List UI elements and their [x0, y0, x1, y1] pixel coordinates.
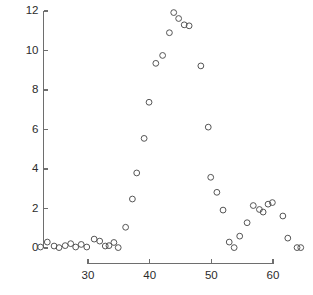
data-point — [78, 242, 84, 248]
data-point — [153, 60, 159, 66]
data-point — [84, 244, 90, 250]
data-point — [250, 203, 256, 209]
data-point — [97, 238, 103, 244]
x-tick-label: 30 — [82, 269, 95, 281]
data-point — [220, 207, 226, 213]
x-tick-label: 50 — [205, 269, 218, 281]
y-tick-label: 10 — [26, 44, 39, 56]
data-point — [111, 240, 117, 246]
y-tick-label: 12 — [26, 4, 39, 16]
data-point — [160, 53, 166, 59]
data-point — [280, 213, 286, 219]
y-tick-label: 8 — [32, 83, 38, 95]
x-tick-label: 60 — [267, 269, 280, 281]
data-point — [123, 224, 129, 230]
data-point — [214, 189, 220, 195]
y-axis: 024681012 — [26, 4, 48, 253]
y-tick-label: 4 — [32, 162, 39, 174]
scatter-plot-figure: 024681012 30405060 — [0, 0, 313, 295]
data-point — [91, 236, 97, 242]
data-point — [176, 16, 182, 22]
data-point — [226, 239, 232, 245]
data-point — [237, 233, 243, 239]
data-point — [134, 170, 140, 176]
data-point — [208, 174, 214, 180]
data-point — [231, 245, 237, 251]
data-point — [44, 239, 50, 245]
data-point — [198, 63, 204, 69]
data-point — [244, 220, 250, 226]
y-tick-label: 6 — [32, 123, 38, 135]
data-point — [171, 10, 177, 16]
data-point — [285, 235, 291, 241]
data-point — [62, 243, 68, 249]
x-tick-label: 40 — [143, 269, 156, 281]
y-tick-label: 2 — [32, 202, 38, 214]
data-point — [205, 124, 211, 130]
data-point — [141, 135, 147, 141]
x-axis: 30405060 — [82, 259, 280, 281]
data-point — [298, 245, 304, 251]
data-point — [73, 244, 79, 250]
data-point — [115, 245, 121, 251]
data-points-layer — [38, 10, 304, 251]
plot-canvas: 024681012 30405060 — [0, 0, 313, 295]
data-point — [146, 99, 152, 105]
data-point — [167, 30, 173, 36]
data-point — [130, 196, 136, 202]
